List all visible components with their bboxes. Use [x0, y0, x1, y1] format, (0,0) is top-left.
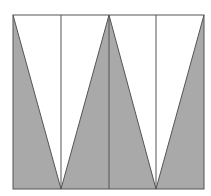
zigzag-diagram [0, 0, 211, 196]
